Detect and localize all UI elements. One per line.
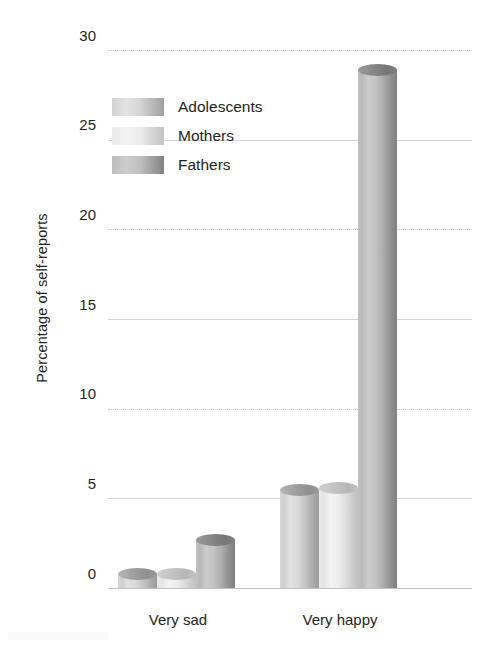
page-scan-artifact xyxy=(8,632,108,640)
bar-very-happy-adolescents xyxy=(280,484,319,588)
bar-body xyxy=(358,70,397,588)
y-tick-label-5: 5 xyxy=(56,475,96,492)
gridline-15 xyxy=(108,319,472,320)
legend-label: Adolescents xyxy=(178,98,262,116)
legend-label: Mothers xyxy=(178,127,234,145)
legend-item-mothers: Mothers xyxy=(112,121,262,150)
bar-body xyxy=(280,490,319,588)
axis-baseline xyxy=(108,588,472,589)
bar-very-sad-mothers xyxy=(157,568,196,588)
chart-legend: Adolescents Mothers Fathers xyxy=(112,92,262,179)
bar-body xyxy=(196,540,235,588)
bar-body xyxy=(319,488,358,588)
legend-swatch-icon xyxy=(112,98,164,116)
chart-container: Percentage of self-reports 30 25 20 15 1… xyxy=(0,0,482,652)
legend-item-fathers: Fathers xyxy=(112,150,262,179)
bar-very-sad-adolescents xyxy=(118,568,157,588)
gridline-30 xyxy=(108,50,472,51)
x-category-label-very-happy: Very happy xyxy=(280,611,400,628)
y-tick-label-0: 0 xyxy=(56,565,96,582)
y-tick-label-10: 10 xyxy=(56,385,96,402)
y-tick-label-30: 30 xyxy=(56,27,96,44)
bar-cap xyxy=(280,484,319,496)
legend-item-adolescents: Adolescents xyxy=(112,92,262,121)
bar-very-sad-fathers xyxy=(196,534,235,588)
x-category-label-very-sad: Very sad xyxy=(118,611,238,628)
y-tick-label-20: 20 xyxy=(56,206,96,223)
gridline-10 xyxy=(108,409,472,410)
y-tick-label-25: 25 xyxy=(56,116,96,133)
y-tick-label-15: 15 xyxy=(56,296,96,313)
bar-very-happy-mothers xyxy=(319,482,358,588)
bar-very-happy-fathers xyxy=(358,64,397,588)
gridline-20 xyxy=(108,229,472,230)
y-axis-title: Percentage of self-reports xyxy=(34,148,50,448)
legend-swatch-icon xyxy=(112,127,164,145)
legend-swatch-icon xyxy=(112,156,164,174)
legend-label: Fathers xyxy=(178,156,231,174)
